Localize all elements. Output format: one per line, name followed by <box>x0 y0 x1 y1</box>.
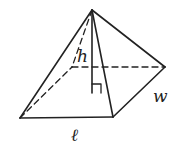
pyramid-diagram: h w ℓ <box>0 0 177 161</box>
length-label: ℓ <box>71 125 78 145</box>
width-label: w <box>153 86 168 106</box>
hidden-edge-left <box>20 67 72 118</box>
height-label: h <box>77 46 88 66</box>
right-angle-marker <box>92 84 101 93</box>
lateral-edge-back-right <box>92 10 165 67</box>
base-edge-length <box>20 117 113 118</box>
lateral-edge-front-right <box>92 10 113 117</box>
